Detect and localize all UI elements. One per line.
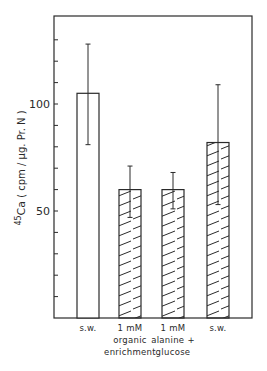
y-tick-label: 50 [36,205,50,218]
bar-chart: 50100 s.w.1 mMorganicenrichment1 mMalani… [0,0,267,371]
x-category-label: glucose [156,347,191,357]
x-category-label: 1 mM [118,323,143,333]
bar-group [207,85,229,318]
x-category-label: s.w. [79,323,96,333]
x-category-label: s.w. [209,323,226,333]
bar-group [162,172,184,318]
bar-group [77,44,99,318]
x-category-label: enrichment [104,347,156,357]
bar-group [119,166,141,318]
y-tick-label: 100 [29,98,50,111]
x-axis-labels: s.w.1 mMorganicenrichment1 mMalanine +gl… [79,323,226,357]
x-category-label: organic [113,335,147,345]
bars [77,44,229,318]
x-category-label: 1 mM [161,323,186,333]
y-axis-label: 45Ca ( cpm / µg. Pr. N ) [14,110,28,225]
x-category-label: alanine + [151,335,195,345]
y-axis-title: 45Ca ( cpm / µg. Pr. N ) [14,110,28,225]
